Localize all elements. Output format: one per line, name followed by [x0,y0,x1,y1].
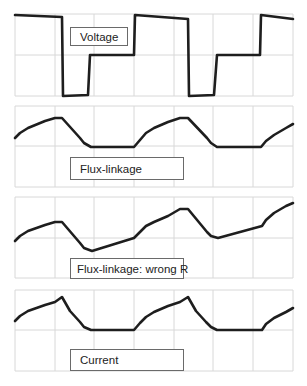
flux-linkage-wrong-r-label: Flux-linkage: wrong R [70,258,184,279]
flux-linkage-label: Flux-linkage [70,157,184,180]
current-label: Current [70,349,184,371]
waveform-figure [0,0,307,386]
flux-linkage-trace [15,118,293,147]
voltage-label: Voltage [70,27,128,46]
flux-linkage-wrong-r-trace [15,203,293,251]
current-trace [15,297,293,330]
